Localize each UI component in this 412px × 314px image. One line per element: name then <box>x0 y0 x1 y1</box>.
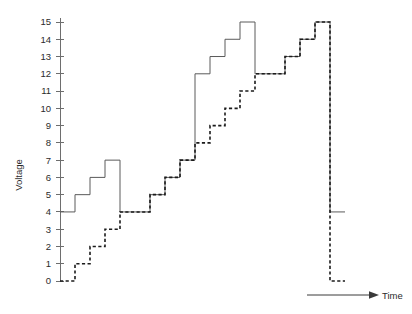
chart-container: 0123456789101112131415 Voltage Time <box>0 0 412 314</box>
y-tick-label-7: 7 <box>46 155 51 166</box>
x-axis-time-arrow: Time <box>307 290 403 301</box>
y-tick-label-9: 9 <box>46 120 51 131</box>
y-axis-tick-labels: 0123456789101112131415 <box>40 16 51 286</box>
y-axis-title: Voltage <box>13 159 24 191</box>
y-tick-label-8: 8 <box>46 137 51 148</box>
y-tick-label-1: 1 <box>46 258 51 269</box>
y-tick-label-14: 14 <box>40 34 51 45</box>
y-tick-label-6: 6 <box>46 172 51 183</box>
y-axis: 0123456789101112131415 <box>40 16 64 286</box>
y-tick-label-0: 0 <box>46 275 51 286</box>
y-tick-label-12: 12 <box>40 68 51 79</box>
y-tick-label-4: 4 <box>46 206 51 217</box>
y-tick-label-15: 15 <box>40 16 51 27</box>
time-arrow-head <box>369 291 379 299</box>
series-group <box>60 22 345 281</box>
staircase-waveform-chart: 0123456789101112131415 Voltage Time <box>0 0 412 314</box>
x-axis-title: Time <box>382 290 403 301</box>
dashed-staircase-series <box>60 22 345 281</box>
y-tick-label-5: 5 <box>46 189 51 200</box>
solid-staircase-series <box>60 22 345 212</box>
y-tick-label-10: 10 <box>40 103 51 114</box>
y-tick-label-2: 2 <box>46 241 51 252</box>
y-tick-label-3: 3 <box>46 224 51 235</box>
y-tick-label-11: 11 <box>41 85 51 96</box>
y-tick-label-13: 13 <box>40 51 51 62</box>
